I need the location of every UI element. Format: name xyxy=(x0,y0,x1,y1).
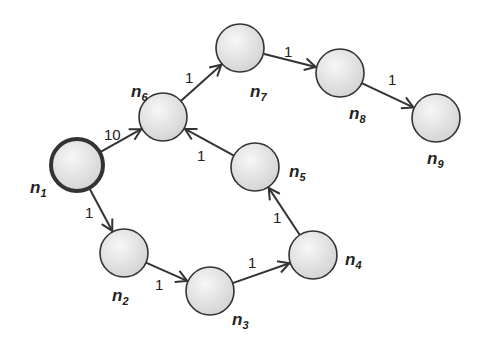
node-n3 xyxy=(186,267,234,315)
node-n9 xyxy=(412,94,460,142)
edge-weight-label: 1 xyxy=(388,71,396,88)
node-n7 xyxy=(216,24,264,72)
arrowhead-icon xyxy=(269,188,280,200)
node-label-n2: n2 xyxy=(112,286,129,307)
edge-weight-label: 10 xyxy=(104,126,121,143)
node-n5 xyxy=(231,143,279,191)
graph-canvas: 1011111111n1n2n3n4n5n6n7n8n9 xyxy=(0,0,486,343)
node-label-n1: n1 xyxy=(30,178,47,199)
edge-weight-label: 1 xyxy=(155,276,163,293)
node-n1 xyxy=(51,139,103,191)
node-label-n5: n5 xyxy=(289,162,306,183)
node-label-n4: n4 xyxy=(345,250,362,271)
edge-n3-n4 xyxy=(233,261,290,283)
node-n4 xyxy=(289,231,337,279)
node-n8 xyxy=(316,49,364,97)
node-label-n3: n3 xyxy=(232,310,249,331)
edge-weight-label: 1 xyxy=(248,254,256,271)
node-label-n7: n7 xyxy=(250,82,267,103)
edge-weight-label: 1 xyxy=(185,69,193,86)
node-label-n9: n9 xyxy=(427,149,444,170)
edge-weight-label: 1 xyxy=(197,147,205,164)
edge-n5-n6 xyxy=(185,129,234,156)
edge-weight-label: 1 xyxy=(284,43,292,60)
edge-weight-label: 1 xyxy=(273,209,281,226)
node-label-n6: n6 xyxy=(131,82,148,103)
node-n2 xyxy=(100,229,148,277)
edge-weight-label: 1 xyxy=(85,204,93,221)
edge-n2-n3 xyxy=(146,263,187,282)
nodes-layer xyxy=(51,24,460,315)
node-label-n8: n8 xyxy=(349,104,366,125)
